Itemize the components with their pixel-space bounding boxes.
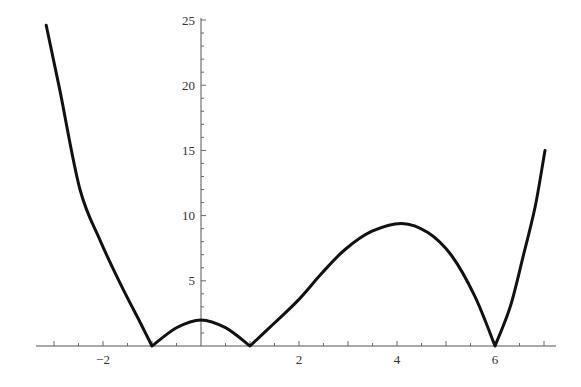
y-tick-label: 15: [182, 143, 195, 158]
line-chart: −2246 510152025: [0, 0, 581, 387]
y-tick-label: 20: [182, 78, 195, 93]
axes: [36, 18, 556, 346]
y-tick-label: 25: [182, 13, 195, 28]
x-tick-label: 4: [394, 352, 401, 367]
y-ticks: [201, 20, 206, 333]
y-tick-label: 10: [182, 208, 195, 223]
x-tick-label: 2: [296, 352, 303, 367]
x-tick-label: −2: [96, 352, 110, 367]
data-series-line: [46, 25, 545, 346]
y-tick-label: 5: [189, 273, 196, 288]
x-tick-labels: −2246: [96, 352, 499, 367]
x-tick-label: 6: [492, 352, 499, 367]
x-ticks: [54, 341, 544, 346]
y-tick-labels: 510152025: [182, 13, 195, 289]
